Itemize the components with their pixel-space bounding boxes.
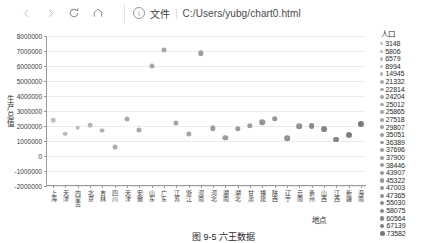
scatter-point <box>149 63 154 68</box>
legend-item-label: 3148 <box>385 40 400 48</box>
legend-dot-icon <box>380 103 384 107</box>
scatter-point <box>51 118 56 123</box>
x-tick-label: 湖南 <box>222 190 228 201</box>
legend-item-label: 21332 <box>386 78 405 86</box>
legend-dot-icon <box>380 156 384 160</box>
address-bar[interactable]: i 文件 | C:/Users/yubg/chart0.html <box>124 4 431 23</box>
x-tick-mark <box>78 185 79 188</box>
legend-dot-icon <box>380 65 383 68</box>
legend-item: 5806 <box>380 48 446 56</box>
legend-item: 24204 <box>380 93 446 101</box>
y-tick-mark <box>44 96 47 97</box>
scatter-point <box>186 132 191 137</box>
forward-button[interactable] <box>38 1 62 25</box>
legend-item-label: 55030 <box>386 199 405 207</box>
site-info-icon[interactable]: i <box>133 7 145 19</box>
x-tick-mark <box>238 185 239 188</box>
scatter-point <box>309 123 315 129</box>
legend-item: 22814 <box>380 86 446 94</box>
y-tick-label: 4000000 <box>17 93 42 100</box>
legend-item-label: 24204 <box>386 93 405 101</box>
legend-item-label: 5806 <box>385 48 400 56</box>
legend-dot-icon <box>380 186 384 190</box>
grid-line <box>47 141 366 142</box>
home-button[interactable] <box>86 1 110 25</box>
x-tick-label: 天津 <box>62 190 68 201</box>
scatter-point <box>124 116 129 121</box>
scatter-point <box>198 51 203 56</box>
grid-line <box>47 171 366 172</box>
legend-item: 43907 <box>380 169 446 177</box>
scatter-point <box>321 126 327 132</box>
legend-item: 37900 <box>380 154 446 162</box>
legend-item-label: 29807 <box>386 124 405 132</box>
x-tick-mark <box>213 185 214 188</box>
grid-line <box>47 186 366 187</box>
x-tick-label: 山西 <box>321 190 327 201</box>
x-tick-label: 山东 <box>149 190 155 201</box>
x-tick-label: 河北 <box>210 190 216 201</box>
legend-item-label: 45322 <box>386 177 405 185</box>
legend-item-label: 8994 <box>385 63 400 71</box>
x-tick-label: 天津 <box>124 190 130 201</box>
x-tick-label: 甘肃 <box>247 190 253 201</box>
legend-item: 25865 <box>380 108 446 116</box>
legend-dot-icon <box>380 118 384 122</box>
legend-item-label: 37696 <box>386 146 405 154</box>
x-tick-label: 湖北 <box>235 190 241 201</box>
x-tick-mark <box>127 185 128 188</box>
reload-button[interactable] <box>62 1 86 25</box>
x-tick-label: 云南 <box>296 190 302 201</box>
x-tick-mark <box>250 185 251 188</box>
y-tick-mark <box>44 141 47 142</box>
grid-line <box>47 81 366 82</box>
legend-dot-icon <box>380 57 383 60</box>
y-tick-mark <box>44 111 47 112</box>
legend-item: 37696 <box>380 146 446 154</box>
x-tick-label: 陕西 <box>272 190 278 201</box>
y-tick-label: -1000000 <box>15 168 42 175</box>
y-tick-label: 8000000 <box>17 33 42 40</box>
legend-item-label: 58075 <box>386 207 405 215</box>
x-tick-label: 辽宁 <box>284 190 290 201</box>
y-tick-mark <box>44 66 47 67</box>
x-tick-mark <box>90 185 91 188</box>
address-scheme-label: 文件 <box>150 6 170 21</box>
legend-item-label: 36389 <box>386 139 405 147</box>
address-separator: | <box>175 8 178 19</box>
legend-item-label: 60564 <box>386 215 405 223</box>
legend-item: 38446 <box>380 162 446 170</box>
scatter-point <box>346 132 352 138</box>
legend-dot-icon <box>380 201 384 205</box>
y-tick-mark <box>44 81 47 82</box>
scatter-point <box>272 116 278 122</box>
scatter-point <box>137 127 142 132</box>
y-tick-label: 6000000 <box>17 63 42 70</box>
x-tick-label: 浙江 <box>186 190 192 201</box>
y-axis-label: 生产总值 <box>4 95 15 127</box>
legend-dot-icon <box>380 194 384 198</box>
x-tick-label: 贵州 <box>309 190 315 201</box>
back-button[interactable] <box>14 1 38 25</box>
grid-line <box>47 156 366 157</box>
x-tick-mark <box>225 185 226 188</box>
legend-dot-icon <box>380 95 384 99</box>
y-tick-mark <box>44 51 47 52</box>
legend-item: 35051 <box>380 131 446 139</box>
legend-dot-icon <box>380 133 384 137</box>
legend-item: 55030 <box>380 199 446 207</box>
legend-item: 58075 <box>380 207 446 215</box>
x-tick-mark <box>324 185 325 188</box>
y-tick-mark <box>44 171 47 172</box>
y-tick-mark <box>44 156 47 157</box>
legend-item-label: 47365 <box>386 192 405 200</box>
legend-item-label: 38446 <box>386 162 405 170</box>
y-tick-label: -2000000 <box>15 183 42 190</box>
legend-dot-icon <box>380 171 384 175</box>
y-tick-label: 0 <box>38 153 42 160</box>
x-tick-mark <box>189 185 190 188</box>
browser-toolbar: i 文件 | C:/Users/yubg/chart0.html <box>0 0 447 27</box>
scatter-point <box>260 119 266 125</box>
x-tick-label: 吉林 <box>99 190 105 201</box>
legend-item: 45322 <box>380 177 446 185</box>
